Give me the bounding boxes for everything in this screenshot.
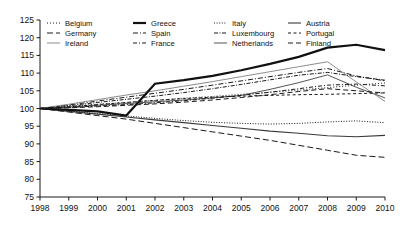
- y-axis: 7580859095100105110115120125: [20, 15, 40, 202]
- y-tick-label: 90: [25, 139, 35, 149]
- y-tick-label: 115: [20, 50, 34, 60]
- x-tick-label: 2000: [88, 203, 107, 213]
- legend-label-portugal: Portugal: [306, 29, 335, 38]
- legend-label-spain: Spain: [151, 29, 170, 38]
- series-line-austria: [40, 109, 385, 137]
- y-tick-label: 95: [25, 121, 35, 131]
- legend-label-belgium: Belgium: [65, 19, 92, 28]
- y-tick-label: 75: [25, 192, 35, 202]
- y-tick-label: 125: [20, 15, 34, 25]
- x-tick-label: 1998: [31, 203, 50, 213]
- y-tick-label: 85: [25, 157, 35, 167]
- series-line-germany: [40, 109, 385, 158]
- legend-label-germany: Germany: [65, 29, 96, 38]
- line-chart: BelgiumGermanyIrelandGreeceSpainFranceIt…: [0, 0, 400, 235]
- legend-label-france: France: [151, 39, 175, 48]
- legend-label-netherlands: Netherlands: [232, 39, 273, 48]
- y-tick-label: 120: [20, 33, 34, 43]
- x-tick-label: 1999: [59, 203, 78, 213]
- x-tick-label: 2004: [203, 203, 222, 213]
- x-tick-label: 2009: [347, 203, 366, 213]
- legend-label-ireland: Ireland: [65, 39, 88, 48]
- legend-label-luxembourg: Luxembourg: [232, 29, 274, 38]
- x-tick-label: 2008: [318, 203, 337, 213]
- x-axis: 1998199920002001200220032004200520062007…: [31, 197, 395, 213]
- y-tick-label: 80: [25, 174, 35, 184]
- y-tick-label: 100: [20, 104, 34, 114]
- x-tick-label: 2002: [146, 203, 165, 213]
- x-tick-label: 2010: [376, 203, 395, 213]
- chart-legend: BelgiumGermanyIrelandGreeceSpainFranceIt…: [47, 19, 335, 48]
- legend-label-greece: Greece: [151, 19, 176, 28]
- y-tick-label: 110: [20, 68, 34, 78]
- legend-label-italy: Italy: [232, 19, 246, 28]
- x-tick-label: 2007: [289, 203, 308, 213]
- legend-label-austria: Austria: [306, 19, 330, 28]
- x-tick-label: 2001: [117, 203, 136, 213]
- x-tick-label: 2005: [232, 203, 251, 213]
- x-tick-label: 2006: [261, 203, 280, 213]
- chart-container: BelgiumGermanyIrelandGreeceSpainFranceIt…: [0, 0, 400, 235]
- series-lines: [40, 45, 385, 158]
- y-tick-label: 105: [20, 86, 34, 96]
- x-tick-label: 2003: [174, 203, 193, 213]
